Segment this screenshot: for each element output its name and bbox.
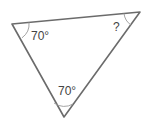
triangle-diagram: 70° ? 70° xyxy=(0,0,151,125)
triangle xyxy=(12,12,140,117)
angle-arc-top-right xyxy=(124,14,131,26)
angle-label-top-right: ? xyxy=(113,20,120,34)
angle-arc-left xyxy=(22,22,29,37)
angle-label-left: 70° xyxy=(31,29,49,43)
angle-label-bottom: 70° xyxy=(58,84,76,98)
